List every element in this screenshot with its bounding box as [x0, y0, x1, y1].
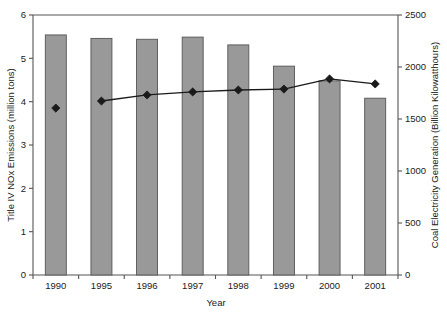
- left-tick-label: 0: [21, 269, 26, 280]
- left-tick-label: 4: [21, 96, 26, 107]
- category-label: 1996: [136, 280, 157, 291]
- bar: [45, 35, 66, 275]
- left-axis-title: Title IV NOx Emissions (million tons): [5, 68, 16, 221]
- bar: [319, 81, 340, 275]
- category-label: 2000: [319, 280, 340, 291]
- right-tick-label: 1000: [405, 165, 426, 176]
- category-label: 1990: [45, 280, 66, 291]
- category-label: 1998: [228, 280, 249, 291]
- bar: [228, 45, 249, 275]
- category-label: 1997: [182, 280, 203, 291]
- category-label: 1999: [273, 280, 294, 291]
- right-tick-label: 0: [405, 269, 410, 280]
- bar: [273, 66, 294, 275]
- bar: [182, 37, 203, 275]
- left-tick-label: 6: [21, 9, 26, 20]
- chart-container: 0123456 05001000150020002500 19901995199…: [0, 0, 447, 314]
- right-tick-label: 500: [405, 217, 421, 228]
- left-tick-label: 3: [21, 139, 26, 150]
- left-tick-label: 2: [21, 183, 26, 194]
- left-tick-label: 1: [21, 226, 26, 237]
- category-label: 2001: [365, 280, 386, 291]
- bar: [91, 38, 112, 275]
- right-tick-label: 2500: [405, 9, 426, 20]
- bar: [365, 98, 386, 275]
- x-axis-title: Year: [206, 297, 225, 308]
- right-tick-label: 1500: [405, 113, 426, 124]
- right-tick-label: 2000: [405, 61, 426, 72]
- dual-axis-bar-line-chart: 0123456 05001000150020002500 19901995199…: [0, 0, 447, 314]
- category-label: 1995: [91, 280, 112, 291]
- left-tick-label: 5: [21, 53, 26, 64]
- right-axis-title: Coal Electricity Generation (Billion Kil…: [429, 42, 440, 248]
- bar: [137, 39, 158, 275]
